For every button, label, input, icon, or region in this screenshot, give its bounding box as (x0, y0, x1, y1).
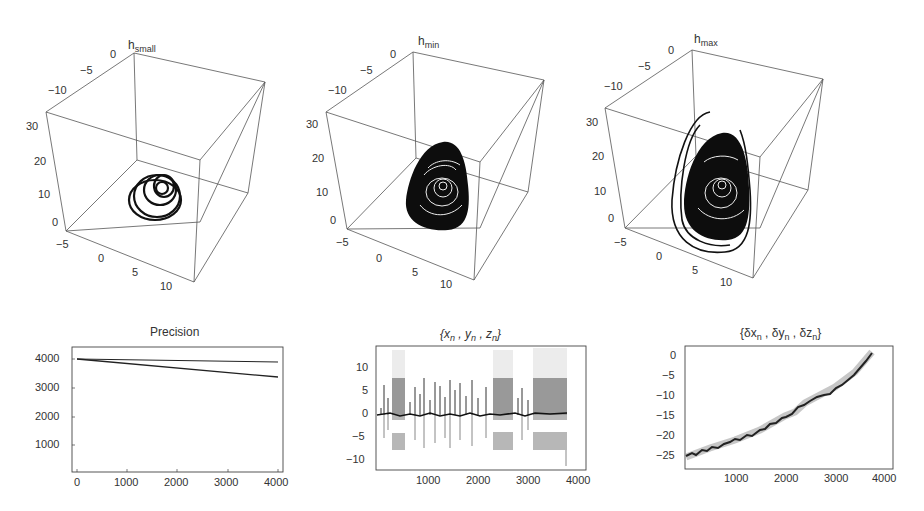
panel-3d-hmin: hmin 0 −5 −10 30 (300, 0, 610, 290)
xyz-scatter-plot (300, 290, 610, 511)
panel-3d-hmax: hmax (600, 0, 924, 290)
cube-3d-plot (600, 0, 924, 290)
panel-xyz: {xn , yn , zn} (300, 290, 610, 511)
attractor-trajectory (406, 142, 469, 230)
cube-3d-plot (0, 0, 310, 290)
panel-delta-xyz: {δxn , δyn , δzn} 0 −5 −10 −15 −20 −25 1… (610, 290, 924, 511)
panel-3d-hsmall: hsmall 0 −5 −10 30 20 10 0 −5 0 5 10 (0, 0, 310, 290)
panel-precision: Precision 4000 3000 2000 1000 0 1000 200… (0, 290, 310, 511)
attractor-trajectory (129, 175, 181, 220)
